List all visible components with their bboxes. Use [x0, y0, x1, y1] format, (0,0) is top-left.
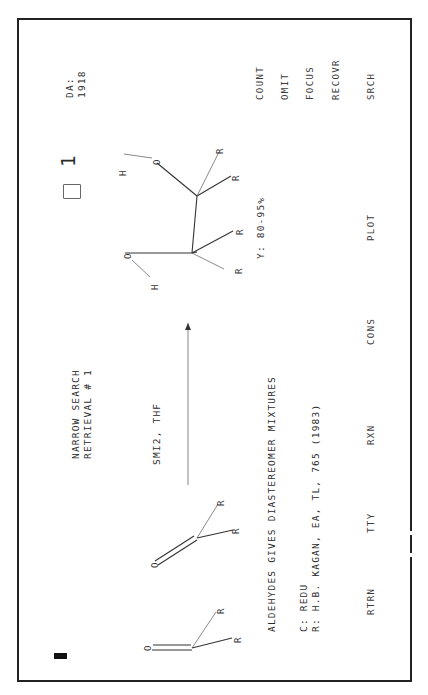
bond	[197, 530, 233, 538]
atom-r: R	[233, 637, 243, 643]
menu-tty[interactable]: TTY	[365, 513, 377, 533]
reactant-1: O R R	[143, 608, 243, 651]
terminal-screen: NARROW SEARCH RETRIEVAL # 1 DA: 1918 1 O…	[0, 0, 428, 695]
menu-recovr[interactable]: RECOVR	[330, 59, 342, 100]
atom-o: O	[143, 646, 153, 651]
menu-rtrn[interactable]: RTRN	[365, 588, 377, 615]
bond	[192, 231, 233, 253]
atom-o: O	[123, 254, 133, 259]
double-bond	[155, 536, 194, 561]
atom-r: R	[231, 528, 241, 534]
double-bond	[158, 540, 197, 565]
menu-omit[interactable]: OMIT	[279, 73, 291, 100]
reference-line: R: H.B. KAGAN, EA, TL, 765 (1983)	[310, 404, 322, 632]
reaction-arrow	[185, 323, 191, 485]
reagents-label: SMI2, THF	[151, 403, 163, 465]
atom-o: O	[150, 563, 160, 568]
menu-focus[interactable]: FOCUS	[304, 66, 316, 100]
product: H O R R H O R R	[118, 148, 245, 290]
atom-r: R	[234, 268, 244, 274]
bond	[132, 260, 150, 277]
menu-count[interactable]: COUNT	[254, 66, 266, 100]
atom-r: R	[215, 148, 225, 154]
arrow-head	[185, 323, 191, 330]
cursor-block	[54, 653, 67, 659]
atom-r: R	[216, 608, 226, 614]
bond	[192, 196, 197, 253]
bond	[157, 163, 197, 196]
bond	[124, 154, 152, 158]
yield-label: Y: 80-95%	[255, 197, 267, 259]
menu-cons[interactable]: CONS	[365, 318, 377, 345]
atom-r: R	[216, 500, 226, 506]
bond	[197, 504, 218, 538]
menu-rxn[interactable]: RXN	[365, 425, 377, 445]
atom-h: H	[118, 171, 128, 176]
atom-o: O	[152, 160, 162, 165]
comment-line: ALDEHYDES GIVES DIASTEREOMER MIXTURES	[266, 376, 278, 632]
atom-r: R	[231, 175, 241, 181]
reaction-diagram: O R R O R R	[0, 0, 428, 695]
atom-h: H	[150, 285, 160, 290]
menu-plot[interactable]: PLOT	[365, 214, 377, 241]
menu-srch[interactable]: SRCH	[365, 73, 377, 100]
reactant-2: O R R	[150, 500, 241, 568]
class-line: C: REDU	[298, 584, 310, 632]
atom-r: R	[235, 229, 245, 235]
bond	[192, 253, 224, 269]
